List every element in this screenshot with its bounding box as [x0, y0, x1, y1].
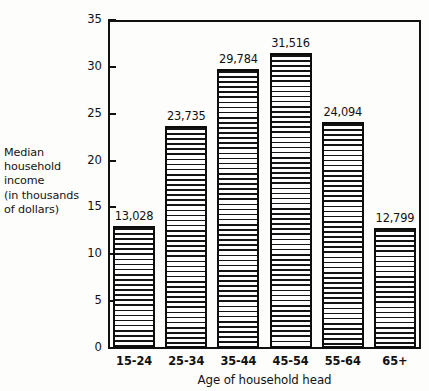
- y-axis-title-line-4: (in thousands: [4, 189, 86, 203]
- bar-value-label: 12,799: [355, 212, 429, 225]
- y-tick-mark: [108, 19, 116, 21]
- y-tick-label: 20: [76, 153, 102, 167]
- y-axis-title: Median household income (in thousands of…: [4, 146, 86, 217]
- x-axis-title: Age of household head: [108, 373, 421, 387]
- bar-65+: [374, 228, 416, 348]
- bar-35-44: [217, 69, 259, 348]
- y-axis-title-line-1: Median: [4, 146, 86, 160]
- y-tick-mark: [108, 160, 116, 162]
- y-tick-label: 30: [76, 59, 102, 73]
- y-tick-label: 25: [76, 106, 102, 120]
- bar-chart: Median household income (in thousands of…: [0, 0, 429, 391]
- y-axis-title-line-3: income: [4, 174, 86, 188]
- y-tick-label: 10: [76, 246, 102, 260]
- bar-15-24: [113, 226, 155, 348]
- bar-45-54: [270, 53, 312, 348]
- bar-value-label: 31,516: [251, 37, 331, 50]
- bar-value-label: 13,028: [94, 210, 174, 223]
- y-axis-title-line-5: of dollars): [4, 203, 86, 217]
- bar-value-label: 23,735: [146, 110, 226, 123]
- y-tick-label: 5: [76, 293, 102, 307]
- y-tick-mark: [108, 66, 116, 68]
- y-axis-title-line-2: household: [4, 160, 86, 174]
- bar-value-label: 29,784: [198, 53, 278, 66]
- y-tick-mark: [108, 113, 116, 115]
- bar-55-64: [322, 122, 364, 348]
- y-tick-label: 0: [76, 340, 102, 354]
- x-tick-label-65+: 65+: [355, 355, 429, 368]
- y-tick-label: 35: [76, 12, 102, 26]
- bar-25-34: [165, 126, 207, 348]
- bar-value-label: 24,094: [303, 106, 383, 119]
